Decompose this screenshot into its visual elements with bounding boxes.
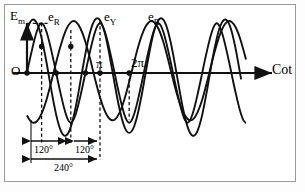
origin-label: O: [11, 63, 20, 79]
curve-label-ey: eY: [104, 9, 116, 27]
y-axis-label: Em: [10, 8, 25, 26]
dot-eR-zero: [24, 70, 29, 75]
dot-eY-peak: [68, 44, 73, 49]
dot-eY-zero: [54, 70, 59, 75]
marker-dots: [24, 44, 132, 76]
dot-eR-peak: [39, 44, 44, 49]
sine-curves-group: [27, 18, 246, 136]
dimension-label-240: 240°: [54, 162, 73, 173]
x-tick-label-pi: π: [96, 56, 103, 72]
x-tick-label-2pi: 2π: [131, 55, 144, 71]
curve-label-eb: eB: [148, 9, 160, 27]
dot-axis-2pi: [127, 70, 132, 75]
waveform-plot: [0, 0, 305, 192]
curve-label-er: eR: [48, 9, 60, 27]
x-axis-label: Cot: [272, 62, 292, 78]
three-phase-waveform-figure: Em eR eY eB O π 2π Cot 120° 120° 240°: [0, 0, 305, 192]
dimension-lines: [31, 120, 97, 163]
curve-eB: [27, 18, 241, 136]
dimension-label-120-b: 120°: [75, 144, 94, 155]
dot-eB-zero: [83, 70, 88, 75]
dimension-label-120-a: 120°: [34, 144, 53, 155]
